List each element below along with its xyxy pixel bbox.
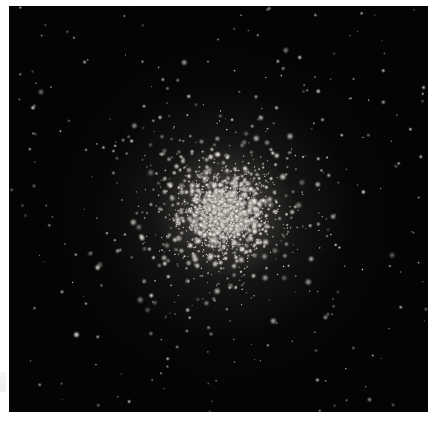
star-cluster-photo: [9, 6, 428, 412]
clipped-margin-text: [0, 372, 6, 392]
star-field: [9, 6, 428, 412]
